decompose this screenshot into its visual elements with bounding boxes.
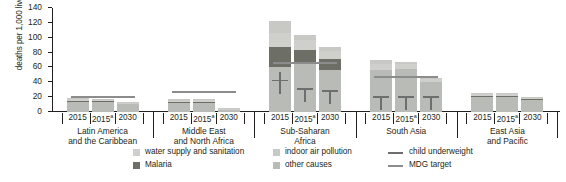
legend-item[interactable]: other causes	[273, 161, 332, 170]
stacked-bar[interactable]	[218, 108, 240, 112]
bar-segment-Malaria	[269, 47, 291, 68]
legend-line-swatch	[388, 152, 403, 154]
legend-item[interactable]: MDG target	[388, 161, 451, 170]
x-tick-divider	[365, 113, 366, 124]
stacked-bar[interactable]	[168, 99, 190, 112]
child-underweight-marker	[272, 80, 288, 81]
bar-segment-water-supply-and-sanitation	[67, 99, 89, 100]
child-underweight-marker	[398, 96, 414, 97]
group-label: Middle Eastand North Africa	[153, 126, 254, 146]
group-label: East Asiaand Pacific	[457, 126, 558, 146]
bar-segment-indoor-air-pollution	[294, 35, 316, 40]
bar-segment-indoor-air-pollution	[496, 93, 518, 94]
group-label-line1: Sub-Saharan	[254, 126, 355, 136]
child-underweight-stem	[405, 96, 407, 110]
legend-item[interactable]: Malaria	[133, 161, 172, 170]
x-tick-label: 2030	[519, 113, 545, 122]
mdg-target-line	[172, 91, 236, 93]
x-tick-divider	[163, 113, 164, 124]
mdg-target-line	[71, 96, 135, 98]
stacked-bar[interactable]	[67, 98, 89, 112]
bar-segment-water-supply-and-sanitation	[117, 103, 139, 104]
bar-group	[52, 8, 153, 112]
bar-segment-other-causes	[471, 97, 493, 112]
bar-segment-water-supply-and-sanitation	[471, 94, 493, 96]
legend-color-swatch	[273, 162, 280, 169]
child-underweight-stem	[304, 88, 306, 102]
y-axis-title-wrap: deaths per 1,000 live births	[0, 8, 14, 116]
chart-legend: water supply and sanitationMalariaindoor…	[0, 148, 566, 182]
bar-segment-water-supply-and-sanitation	[370, 64, 392, 71]
legend-label: MDG target	[409, 160, 451, 169]
plot-area: 020406080100120140	[52, 8, 558, 112]
bar-group	[356, 8, 457, 112]
bar-segment-other-causes	[218, 109, 240, 112]
group-label: South Asia	[356, 126, 457, 136]
bar-segment-Malaria	[168, 102, 190, 103]
legend-label: other causes	[285, 160, 332, 169]
legend-label: Malaria	[145, 160, 172, 169]
bar-segment-other-causes	[168, 103, 190, 112]
bar-segment-water-supply-and-sanitation	[218, 109, 240, 110]
x-tick-label: 2015	[65, 113, 91, 122]
x-tick-divider	[466, 113, 467, 124]
stacked-bar[interactable]	[117, 102, 139, 112]
x-tick-label: 2030	[216, 113, 242, 122]
mdg-target-line	[374, 76, 438, 78]
legend-label: child underweight	[409, 147, 473, 156]
y-axis-tick-label: 20	[33, 92, 42, 100]
bar-segment-indoor-air-pollution	[92, 99, 114, 100]
bar-segment-indoor-air-pollution	[370, 60, 392, 64]
bar-segment-indoor-air-pollution	[395, 62, 417, 64]
y-axis-tick-label: 80	[33, 48, 42, 56]
child-underweight-marker	[373, 96, 389, 97]
x-tick-row: 20152015a203020152015a203020152015a20302…	[52, 113, 558, 127]
group-label: Latin Americaand the Caribbean	[52, 126, 153, 146]
x-tick-label: 2030	[317, 113, 343, 122]
legend-label: water supply and sanitation	[145, 147, 244, 156]
group-label-line2: and Pacific	[457, 136, 558, 146]
bar-group	[254, 8, 355, 112]
group-label-line1: East Asia	[457, 126, 558, 136]
y-axis-tick-label: 40	[33, 77, 42, 85]
stacked-bar[interactable]	[269, 21, 291, 112]
chart-figure: deaths per 1,000 live births 02040608010…	[0, 0, 566, 182]
stacked-bar[interactable]	[521, 97, 543, 112]
bar-segment-Malaria	[67, 101, 89, 102]
bar-segment-Malaria	[319, 59, 341, 70]
bar-segment-water-supply-and-sanitation	[496, 94, 518, 96]
bar-segment-water-supply-and-sanitation	[168, 101, 190, 102]
stacked-bar[interactable]	[471, 93, 493, 112]
bar-segment-water-supply-and-sanitation	[92, 100, 114, 101]
bar-segment-other-causes	[117, 104, 139, 112]
child-underweight-marker	[297, 88, 313, 89]
bar-segment-Malaria	[193, 102, 215, 103]
bar-segment-water-supply-and-sanitation	[395, 64, 417, 69]
y-axis-title: deaths per 1,000 live births	[15, 0, 24, 78]
bar-segment-indoor-air-pollution	[67, 98, 89, 99]
x-tick-footnote: a	[515, 113, 518, 119]
legend-item[interactable]: water supply and sanitation	[133, 148, 244, 157]
bar-segment-water-supply-and-sanitation	[294, 40, 316, 50]
x-tick-footnote: a	[414, 113, 417, 119]
y-axis-tick-label: 0	[37, 107, 42, 115]
bar-segment-indoor-air-pollution	[319, 47, 341, 51]
bar-segment-indoor-air-pollution	[193, 99, 215, 100]
x-tick-label: 2015a	[393, 113, 419, 124]
legend-line-swatch	[388, 165, 403, 167]
bar-segment-other-causes	[67, 102, 89, 112]
x-tick-divider	[143, 113, 144, 124]
legend-item[interactable]: indoor air pollution	[273, 148, 352, 157]
bar-segment-Malaria	[521, 99, 543, 100]
child-underweight-stem	[279, 72, 281, 94]
stacked-bar[interactable]	[92, 99, 114, 112]
stacked-bar[interactable]	[193, 99, 215, 112]
legend-item[interactable]: child underweight	[388, 148, 473, 157]
x-tick-label: 2015	[368, 113, 394, 122]
stacked-bar[interactable]	[496, 93, 518, 112]
child-underweight-stem	[430, 96, 432, 110]
y-axis-tick-label: 120	[28, 18, 42, 26]
bar-segment-other-causes	[193, 103, 215, 112]
x-tick-label: 2015a	[292, 113, 318, 124]
bar-segment-other-causes	[92, 102, 114, 112]
